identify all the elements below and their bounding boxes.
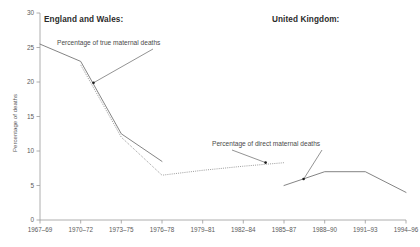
annotation-label-direct-maternal-deaths: Percentage of direct maternal deaths [212,140,321,148]
annotation-direct-maternal-deaths: Percentage of direct maternal deaths [212,140,322,180]
group-header-england-wales: England and Wales: [44,15,123,24]
x-tick-label-1985-87: 1985–87 [272,226,297,233]
chart-container: England and Wales: United Kingdom: 0 5 1… [0,0,420,247]
x-tick-label-1994-96: 1994–96 [394,226,419,233]
annotation-leader-line-right [304,150,322,179]
x-tick-label-1970-72: 1970–72 [68,226,93,233]
x-tick-label-1973-75: 1973–75 [109,226,134,233]
series-direct-maternal-deaths-england-wales [81,65,284,175]
series-true-maternal-deaths-england-wales [40,44,162,161]
group-header-united-kingdom: United Kingdom: [272,15,339,24]
series-direct-maternal-deaths-united-kingdom [284,172,406,193]
y-tick-label-0: 0 [30,216,34,223]
x-tick-label-1976-78: 1976–78 [150,226,175,233]
annotation-label-true-maternal-deaths: Percentage of true maternal deaths [57,39,161,47]
x-tick-label-1979-81: 1979–81 [190,226,215,233]
annotation-leader-line [94,49,153,83]
x-tick-label-1967-69: 1967–69 [28,226,53,233]
x-tick-label-1982-84: 1982–84 [231,226,256,233]
annotation-leader-dot-right [302,178,305,181]
annotation-leader-dot [92,82,95,85]
x-tick-label-1991-93: 1991–93 [353,226,378,233]
y-tick-label-30: 30 [27,9,35,16]
annotation-true-maternal-deaths: Percentage of true maternal deaths [57,39,161,84]
y-axis-title: Percentage of deaths [11,94,18,152]
y-axis: 0 5 10 15 20 25 30 Percentage of deaths [11,9,40,223]
annotation-leader-dot-left [264,161,267,164]
x-tick-label-1988-90: 1988–90 [312,226,337,233]
line-chart: England and Wales: United Kingdom: 0 5 1… [0,0,420,247]
y-tick-label-20: 20 [27,78,35,85]
y-tick-label-10: 10 [27,147,35,154]
y-tick-label-15: 15 [27,113,35,120]
y-tick-label-25: 25 [27,44,35,51]
y-tick-label-5: 5 [30,182,34,189]
x-axis: 1967–69 1970–72 1973–75 1976–78 1979–81 … [28,220,419,233]
annotation-leader-line-left [232,150,265,162]
